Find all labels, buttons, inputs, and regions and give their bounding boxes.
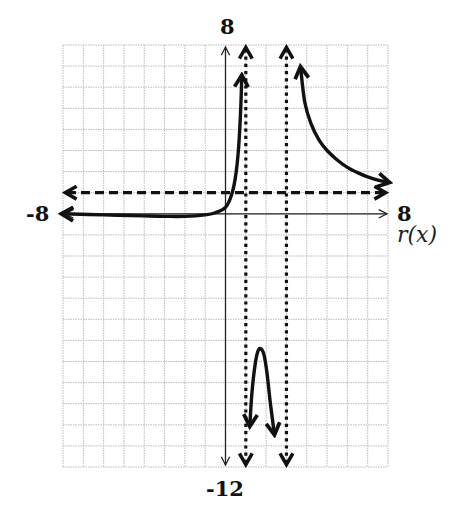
function-label: r(x)	[397, 222, 437, 247]
branch-right-curve	[301, 68, 388, 182]
branch-left-curve	[63, 77, 242, 217]
graph	[0, 0, 461, 518]
x-min-label: -8	[26, 201, 49, 226]
y-max-label: 8	[220, 14, 235, 39]
y-min-label: -12	[206, 476, 244, 501]
